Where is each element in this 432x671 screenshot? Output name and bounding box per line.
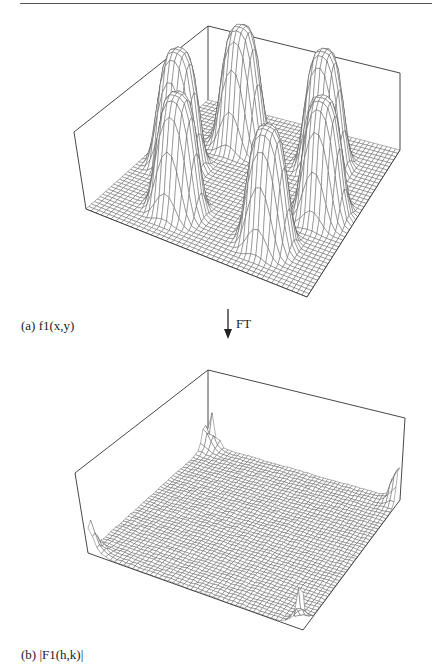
caption-figure-b: (b) |F1(h,k)| — [21, 647, 83, 663]
surface-plot-f1 — [0, 0, 432, 305]
surface-plot-F1-magnitude — [0, 345, 432, 645]
caption-figure-a: (a) f1(x,y) — [21, 318, 74, 334]
fourier-transform-label: FT — [236, 316, 251, 332]
down-arrow-icon — [222, 309, 234, 339]
